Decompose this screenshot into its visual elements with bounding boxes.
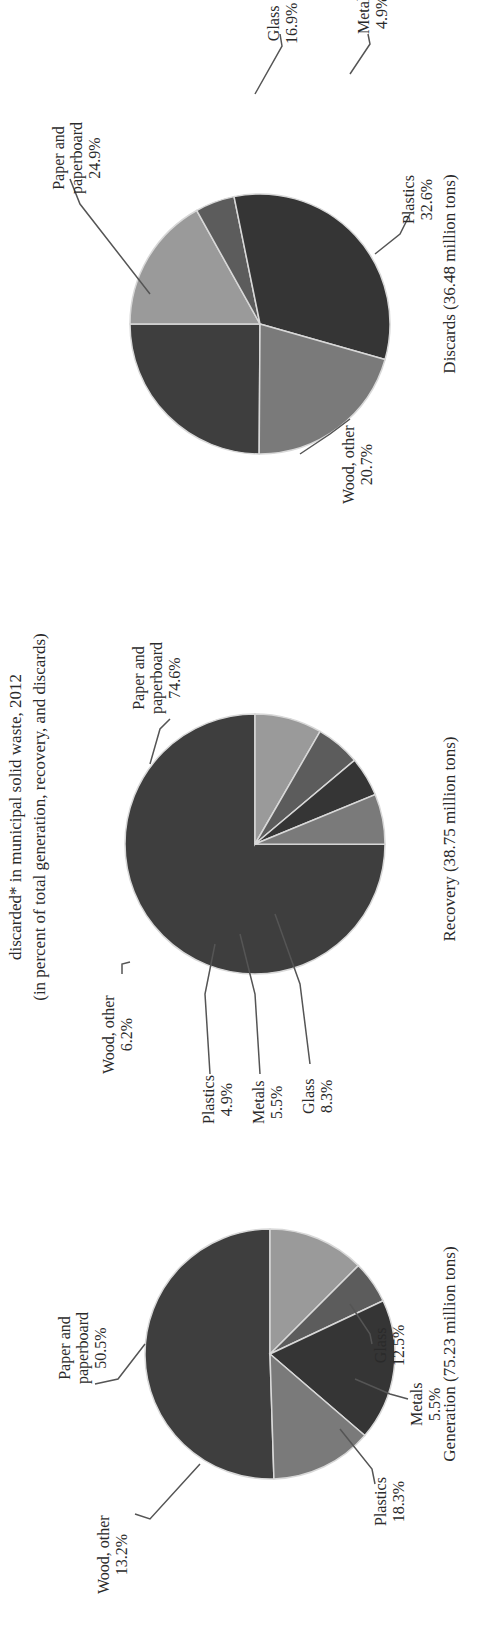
gen-label-wood: Wood, other13.2% <box>95 1515 131 1594</box>
rec-label-paper: Paper andpaperboard74.6% <box>130 642 184 714</box>
pie-slice-paper <box>130 324 260 454</box>
dis-caption: Discards (36.48 million tons) <box>440 74 460 474</box>
gen-label-paper: Paper andpaperboard50.5% <box>56 1312 110 1384</box>
dis-label-wood: Wood, other20.7% <box>340 425 376 504</box>
pie-slice-paper <box>145 1229 274 1479</box>
rec-caption: Recovery (38.75 million tons) <box>440 639 460 1039</box>
dis-label-plastics: Plastics32.6% <box>400 175 436 224</box>
rec-label-plastics: Plastics4.9% <box>200 1075 236 1124</box>
leader-line <box>350 34 370 74</box>
rec-label-wood: Wood, other6.2% <box>100 995 136 1074</box>
dis-label-metals: Metals4.9% <box>355 0 391 34</box>
leader-line <box>135 1464 200 1519</box>
gen-label-plastics: Plastics18.3% <box>372 1477 408 1526</box>
gen-label-glass: Glass12.5% <box>372 1325 408 1366</box>
rec-label-glass: Glass8.3% <box>300 1078 336 1114</box>
rec-label-metals: Metals5.5% <box>250 1080 286 1124</box>
leader-line <box>122 962 130 974</box>
gen-label-metals: Metals5.5% <box>408 1382 444 1426</box>
dis-label-glass: Glass16.9% <box>265 3 301 44</box>
dis-label-paper: Paper andpaperboard24.9% <box>50 122 104 194</box>
leader-line <box>70 179 150 294</box>
gen-caption: Generation (75.23 million tons) <box>440 1154 460 1554</box>
figure-rotated: discarded* in municipal solid waste, 201… <box>0 0 490 1634</box>
